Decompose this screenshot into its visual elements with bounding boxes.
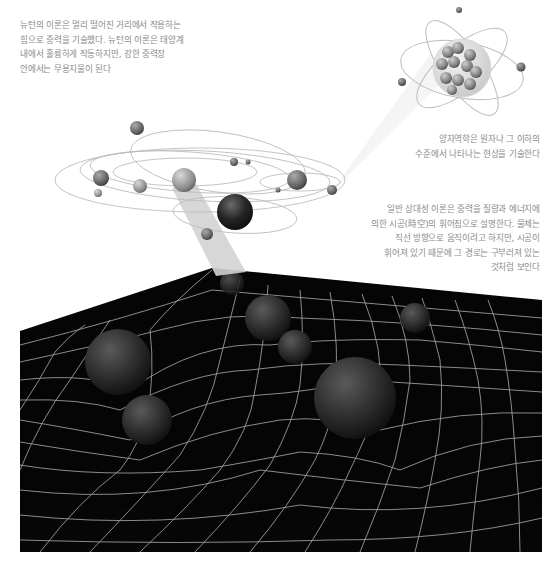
caption-line: 직선 방향으로 움직이려고 하지만, 시공이 — [371, 231, 540, 246]
caption-line: 양자역학은 원자나 그 이하의 — [415, 132, 540, 147]
quantum-zoom-beam — [332, 52, 440, 192]
caption-line: 힘으로 중력을 기술했다. 뉴턴의 이론은 태양계 — [20, 33, 183, 48]
spacetime-grid — [20, 268, 542, 552]
caption-line: 내에서 훌륭하게 작동하지만, 강한 중력장 — [20, 47, 183, 62]
general-relativity-caption: 일반 상대성 이론은 중력을 질량과 에너지에 의한 시공(時空)의 휘어짐으로… — [371, 202, 540, 275]
caption-line: 일반 상대성 이론은 중력을 질량과 에너지에 — [371, 202, 540, 217]
caption-line: 뉴턴의 이론은 멀리 떨어진 거리에서 작용하는 — [20, 18, 183, 33]
physics-illustration — [0, 0, 560, 570]
caption-line: 휘어져 있기 때문에 그 경로는 구부러져 있는 — [371, 246, 540, 261]
quantum-mechanics-caption: 양자역학은 원자나 그 이하의 수준에서 나타나는 현상을 기술한다 — [415, 132, 540, 161]
caption-line: 안에서는 무용지물이 된다 — [20, 62, 183, 77]
caption-line: 의한 시공(時空)의 휘어짐으로 설명한다. 물체는 — [371, 217, 540, 232]
caption-line: 수준에서 나타나는 현상을 기술한다 — [415, 147, 540, 162]
caption-line: 것처럼 보인다 — [371, 260, 540, 275]
newton-theory-caption: 뉴턴의 이론은 멀리 떨어진 거리에서 작용하는 힘으로 중력을 기술했다. 뉴… — [20, 18, 183, 76]
